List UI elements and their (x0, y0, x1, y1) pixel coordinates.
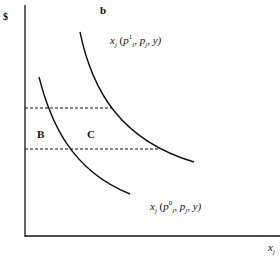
region-c-label: C (87, 129, 95, 140)
demand-curve-upper (80, 32, 194, 162)
top-marker-label: b (100, 5, 106, 16)
demand-curve-lower (39, 77, 130, 194)
x-axis-label: xj (268, 242, 275, 253)
y-axis-label: $ (3, 12, 8, 22)
region-b-label: B (37, 129, 44, 140)
upper-curve-label: xj (p1i, pj, y) (110, 35, 161, 46)
lower-curve-label: xj (p0i, pj, y) (150, 201, 201, 212)
